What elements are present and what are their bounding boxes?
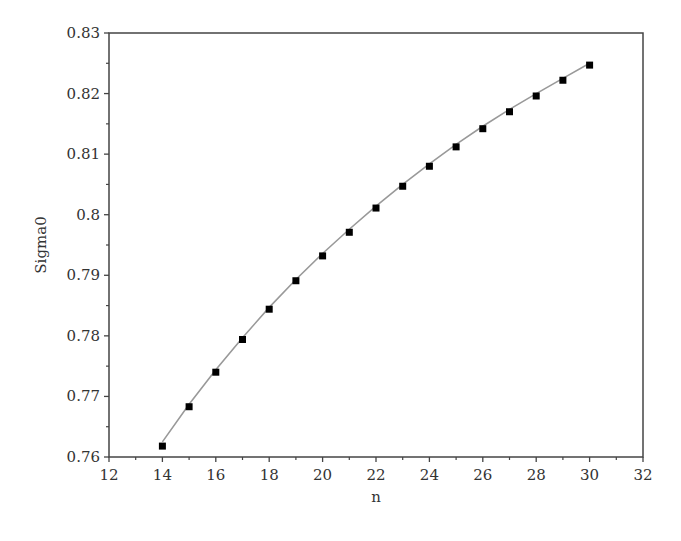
data-point-marker bbox=[426, 163, 433, 170]
y-axis-title: Sigma0 bbox=[32, 216, 50, 273]
data-point-marker bbox=[346, 229, 353, 236]
data-point-marker bbox=[533, 92, 540, 99]
data-point-marker bbox=[559, 77, 566, 84]
y-axis: 0.760.770.780.790.80.810.820.83 bbox=[67, 24, 109, 466]
y-tick-label: 0.76 bbox=[67, 448, 100, 466]
x-tick-label: 12 bbox=[99, 466, 118, 484]
y-tick-label: 0.83 bbox=[67, 24, 100, 42]
data-point-marker bbox=[506, 108, 513, 115]
data-point-marker bbox=[453, 143, 460, 150]
x-axis: 1214161820222426283032 bbox=[99, 457, 652, 484]
data-point-marker bbox=[399, 183, 406, 190]
chart-canvas: 1214161820222426283032 0.760.770.780.790… bbox=[0, 0, 681, 541]
y-tick-label: 0.78 bbox=[67, 327, 100, 345]
x-tick-label: 26 bbox=[473, 466, 492, 484]
plot-frame bbox=[109, 33, 643, 457]
data-point-marker bbox=[159, 443, 166, 450]
data-point-marker bbox=[239, 336, 246, 343]
y-tick-label: 0.8 bbox=[76, 206, 100, 224]
y-tick-label: 0.79 bbox=[67, 266, 100, 284]
x-axis-title: n bbox=[371, 488, 381, 506]
data-point-marker bbox=[186, 403, 193, 410]
plot-area bbox=[109, 33, 643, 457]
x-tick-label: 24 bbox=[420, 466, 439, 484]
data-point-marker bbox=[373, 205, 380, 212]
y-tick-label: 0.77 bbox=[67, 387, 100, 405]
data-point-marker bbox=[212, 369, 219, 376]
data-point-marker bbox=[586, 62, 593, 69]
x-tick-label: 30 bbox=[580, 466, 599, 484]
data-point-marker bbox=[266, 306, 273, 313]
x-tick-label: 20 bbox=[313, 466, 332, 484]
y-tick-label: 0.82 bbox=[67, 85, 100, 103]
x-tick-label: 14 bbox=[153, 466, 172, 484]
data-point-marker bbox=[292, 277, 299, 284]
data-point-marker bbox=[319, 252, 326, 259]
x-tick-label: 22 bbox=[366, 466, 385, 484]
y-tick-label: 0.81 bbox=[67, 145, 100, 163]
x-tick-label: 32 bbox=[633, 466, 652, 484]
data-point-marker bbox=[479, 125, 486, 132]
x-tick-label: 18 bbox=[260, 466, 279, 484]
x-tick-label: 16 bbox=[206, 466, 225, 484]
fit-curve bbox=[162, 63, 589, 442]
x-tick-label: 28 bbox=[527, 466, 546, 484]
